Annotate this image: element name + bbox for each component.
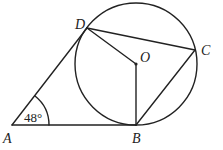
point-label-c: C xyxy=(201,43,211,58)
point-label-a: A xyxy=(2,131,12,146)
point-label-d: D xyxy=(74,17,85,32)
center-point-o xyxy=(134,62,137,65)
point-label-o: O xyxy=(140,50,150,65)
point-label-b: B xyxy=(132,131,141,146)
angle-label-a: 48° xyxy=(24,110,42,125)
geometry-diagram: 48° A B C D O xyxy=(0,0,223,150)
segment-dc xyxy=(87,28,195,50)
